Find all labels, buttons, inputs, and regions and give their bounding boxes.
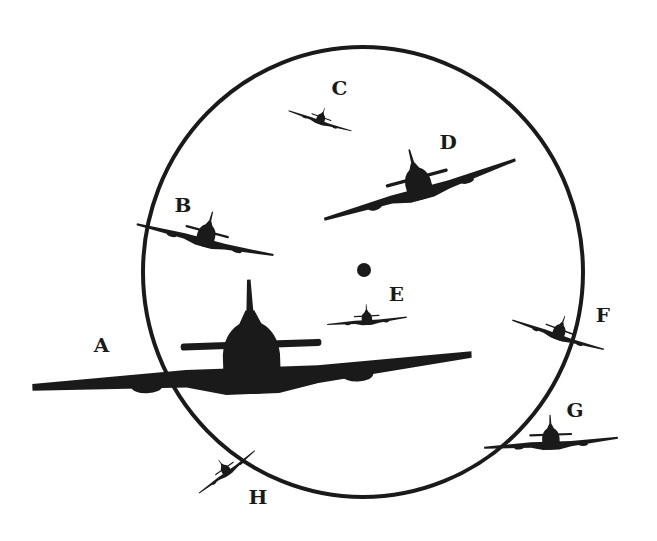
gunsight-diagram: [0, 0, 657, 541]
aircraft-d-icon: [313, 124, 520, 226]
label-e: E: [389, 285, 404, 304]
aircraft-b-icon: [136, 193, 281, 264]
label-h: H: [249, 488, 268, 507]
label-b: B: [175, 196, 192, 215]
label-f: F: [596, 306, 610, 325]
label-a: A: [94, 336, 109, 355]
label-d: D: [440, 133, 457, 152]
label-g: G: [567, 401, 584, 420]
aircraft-e-icon: [326, 302, 407, 327]
aircraft-g-icon: [483, 413, 618, 452]
center-dot: [357, 263, 371, 277]
aircraft-c-icon: [288, 97, 356, 136]
label-c: C: [332, 79, 348, 98]
